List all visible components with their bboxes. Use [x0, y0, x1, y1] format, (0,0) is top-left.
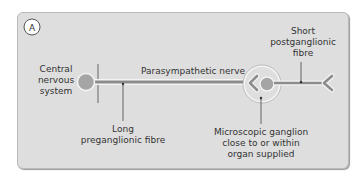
preganglionic-label-line: Long: [78, 124, 168, 135]
preganglionic-leader-dot: [122, 83, 124, 85]
cns-cell-body-icon: [78, 74, 95, 91]
postganglionic-label-line: fibre: [270, 48, 336, 59]
panel-label: A: [24, 20, 40, 36]
preganglionic-label-line: preganglionic fibre: [78, 135, 168, 146]
ganglion-label-line: Microscopic ganglion: [210, 127, 312, 138]
target-terminal-core: [324, 76, 332, 90]
ganglion-label-line: organ supplied: [210, 149, 312, 160]
postganglionic-label-line: postganglionic: [270, 37, 336, 48]
postganglionic-leader-dot: [300, 81, 302, 83]
cns-label-line: Central: [32, 64, 80, 75]
ganglion-label: Microscopic ganglion close to or within …: [210, 127, 312, 160]
ganglion-label-line: close to or within: [210, 138, 312, 149]
cns-label-line: nervous: [32, 75, 80, 86]
cns-label-line: system: [32, 86, 80, 97]
ganglion-cell-body-icon: [260, 77, 274, 91]
ganglion-leader-dot: [260, 97, 262, 99]
cns-label: Central nervous system: [32, 64, 80, 97]
postganglionic-label-line: Short: [270, 26, 336, 37]
preganglionic-label: Long preganglionic fibre: [78, 124, 168, 146]
postganglionic-label: Short postganglionic fibre: [270, 26, 336, 59]
nerve-label: Parasympathetic nerve: [138, 66, 248, 77]
